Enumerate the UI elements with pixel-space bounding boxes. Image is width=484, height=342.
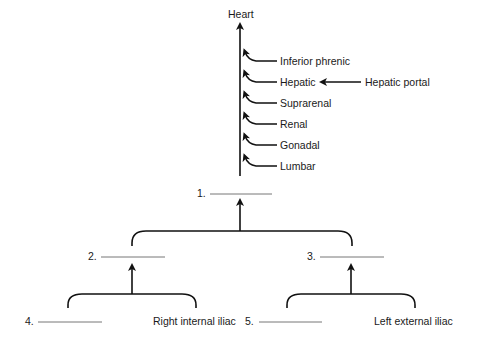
hepatic-portal-label: Hepatic portal (365, 76, 430, 88)
blank-number-5: 5. (245, 315, 254, 327)
branch-lumbar (245, 157, 277, 166)
branch-gonadal (245, 136, 277, 145)
right-internal-iliac-label: Right internal iliac (153, 315, 236, 327)
branch-renal (245, 115, 277, 124)
left-external-iliac-label: Left external iliac (374, 315, 453, 327)
bracket-1 (132, 231, 352, 246)
branch-inferior-phrenic (245, 52, 277, 61)
blank-number-4: 4. (25, 315, 34, 327)
tributary-inferior-phrenic: Inferior phrenic (280, 55, 350, 67)
tributary-gonadal: Gonadal (280, 139, 320, 151)
tributary-suprarenal: Suprarenal (280, 97, 331, 109)
flow-diagram-lines (0, 0, 484, 342)
tributary-renal: Renal (280, 118, 307, 130)
tributary-hepatic: Hepatic (280, 76, 316, 88)
heart-label: Heart (228, 8, 254, 20)
blank-number-2: 2. (88, 250, 97, 262)
branch-suprarenal (245, 94, 277, 103)
bracket-3 (287, 294, 415, 308)
bracket-2 (68, 294, 196, 308)
tributary-lumbar: Lumbar (280, 160, 316, 172)
branch-hepatic (245, 73, 277, 82)
blank-number-3: 3. (307, 250, 316, 262)
blank-number-1: 1. (197, 187, 206, 199)
